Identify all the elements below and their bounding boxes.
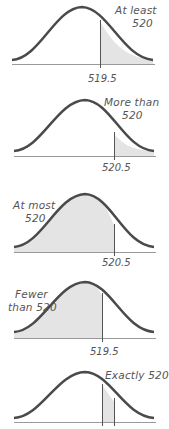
- region-label: At most 520: [13, 199, 59, 225]
- label-line: 520: [115, 17, 155, 30]
- shaded-region: [102, 385, 114, 422]
- label-line: 520: [104, 109, 160, 122]
- label-line: 520: [13, 212, 59, 225]
- cutoff-value: 519.5: [88, 73, 117, 85]
- region-label: Exactly 520: [105, 369, 169, 382]
- panel-at-most: At most 520 520.5: [0, 175, 169, 260]
- label-line: Exactly 520: [105, 369, 169, 382]
- panel-exactly: Exactly 520: [0, 360, 169, 429]
- panel-at-least: At least 520 519.5: [0, 0, 169, 85]
- panel-fewer-than: Fewer than 520 519.5: [0, 260, 169, 360]
- region-label: At least 520: [115, 4, 155, 30]
- label-line: More than: [104, 96, 160, 109]
- label-line: At most: [13, 199, 59, 212]
- label-line: Fewer: [8, 288, 60, 301]
- label-line: At least: [115, 4, 155, 17]
- region-label: More than 520: [104, 96, 160, 122]
- label-line: than 520: [8, 301, 60, 314]
- region-label: Fewer than 520: [8, 288, 60, 314]
- shaded-region: [114, 134, 154, 156]
- cutoff-value: 520.5: [102, 162, 131, 174]
- panel-more-than: More than 520 520.5: [0, 85, 169, 175]
- cutoff-value: 519.5: [90, 346, 119, 358]
